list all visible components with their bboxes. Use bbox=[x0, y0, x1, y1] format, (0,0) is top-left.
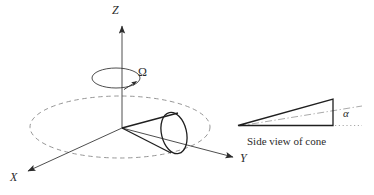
y-axis-line bbox=[122, 128, 233, 157]
omega-symbol: Ω bbox=[138, 66, 147, 78]
side-view-caption: Side view of cone bbox=[247, 136, 326, 147]
omega-direction-arrow-icon bbox=[124, 82, 137, 90]
axis-label-x: X bbox=[10, 171, 17, 183]
cone-rotation-diagram: Z X Y Ω α Side view of cone bbox=[0, 0, 374, 195]
side-view-triangle bbox=[238, 99, 333, 126]
cone-slant-upper bbox=[122, 113, 178, 128]
base-plane-dashed-ellipse bbox=[30, 96, 210, 158]
axis-label-y: Y bbox=[240, 152, 247, 164]
axis-label-z: Z bbox=[112, 4, 119, 16]
alpha-symbol: α bbox=[343, 108, 349, 119]
diagram-canvas bbox=[0, 0, 374, 195]
x-axis-line bbox=[28, 128, 122, 171]
precession-ellipse bbox=[92, 68, 140, 88]
